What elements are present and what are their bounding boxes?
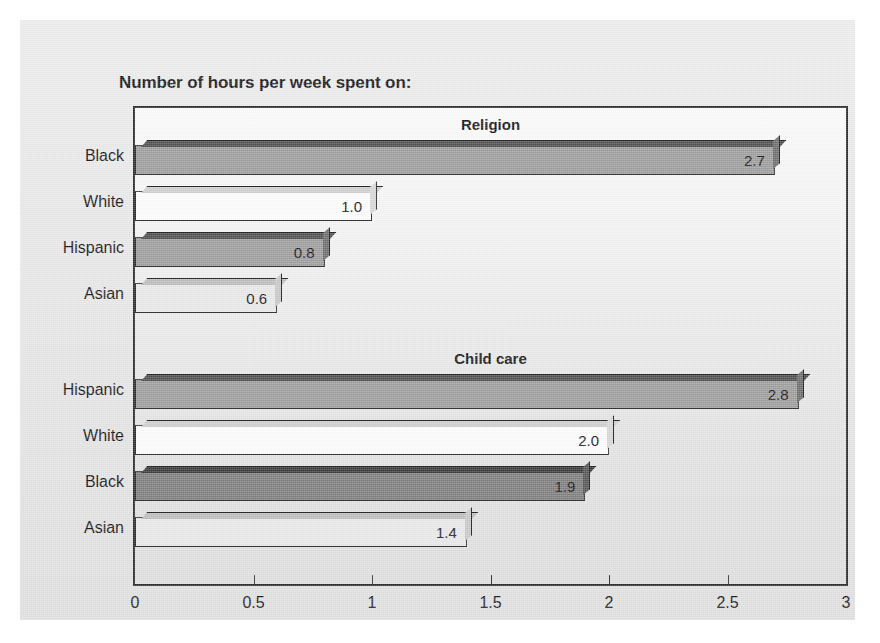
page-title: Number of hours per week spent on: xyxy=(119,73,411,93)
bar-top-face xyxy=(141,140,786,147)
bar-side-face xyxy=(275,273,282,307)
bar-value-label: 2.0 xyxy=(578,432,599,449)
bar-value-label: 1.9 xyxy=(554,478,575,495)
bar-side-face xyxy=(323,227,330,261)
section-title-religion: Religion xyxy=(135,116,846,133)
bar-top-face xyxy=(141,374,810,381)
x-tick xyxy=(491,575,492,584)
y-axis-label-hispanic: Hispanic xyxy=(28,239,124,257)
bar-child-care-white: 2.0 xyxy=(135,425,609,455)
x-tick-label: 2.5 xyxy=(716,594,738,612)
bar-value-label: 2.7 xyxy=(744,152,765,169)
bar-religion-hispanic: 0.8 xyxy=(135,237,325,267)
x-tick-label: 3 xyxy=(842,594,851,612)
bar-value-label: 1.4 xyxy=(436,524,457,541)
bar-religion-black: 2.7 xyxy=(135,145,775,175)
bar-top-face xyxy=(141,420,620,427)
bar-side-face xyxy=(797,369,804,403)
bar-side-face xyxy=(773,135,780,169)
bar-value-label: 0.6 xyxy=(246,290,267,307)
y-axis-label-asian: Asian xyxy=(28,285,124,303)
bar-top-face xyxy=(141,466,597,473)
bar-side-face xyxy=(370,181,377,215)
bar-top-face xyxy=(141,186,383,193)
x-tick-label: 1 xyxy=(368,594,377,612)
section-title-child-care: Child care xyxy=(135,350,846,367)
x-tick xyxy=(728,575,729,584)
bar-child-care-asian: 1.4 xyxy=(135,517,467,547)
bar-top-face xyxy=(141,278,288,285)
bar-child-care-hispanic: 2.8 xyxy=(135,379,799,409)
x-tick-label: 0.5 xyxy=(242,594,264,612)
y-axis-label-hispanic: Hispanic xyxy=(28,381,124,399)
y-axis-label-asian: Asian xyxy=(28,519,124,537)
chart-plot-area: Religion Child care 2.71.00.80.62.82.01.… xyxy=(133,106,848,586)
x-tick-label: 2 xyxy=(605,594,614,612)
bar-religion-asian: 0.6 xyxy=(135,283,277,313)
x-tick xyxy=(372,575,373,584)
x-tick xyxy=(609,575,610,584)
bar-side-face xyxy=(465,507,472,541)
x-tick-label: 0 xyxy=(131,594,140,612)
y-axis-label-white: White xyxy=(28,193,124,211)
scanned-page: Number of hours per week spent on: Relig… xyxy=(20,20,855,620)
x-tick-label: 1.5 xyxy=(479,594,501,612)
y-axis-label-black: Black xyxy=(28,147,124,165)
bar-top-face xyxy=(141,512,478,519)
bar-value-label: 2.8 xyxy=(768,386,789,403)
bar-value-label: 1.0 xyxy=(341,198,362,215)
bar-religion-white: 1.0 xyxy=(135,191,372,221)
bar-top-face xyxy=(141,232,336,239)
bar-child-care-black: 1.9 xyxy=(135,471,585,501)
bar-side-face xyxy=(607,415,614,449)
y-axis-label-white: White xyxy=(28,427,124,445)
bar-value-label: 0.8 xyxy=(294,244,315,261)
bar-side-face xyxy=(583,461,590,495)
x-tick xyxy=(254,575,255,584)
y-axis-label-black: Black xyxy=(28,473,124,491)
